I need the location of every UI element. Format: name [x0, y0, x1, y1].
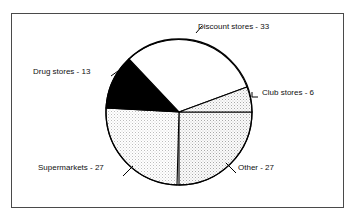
pie-label-discount-stores: Discount stores - 33 — [198, 22, 269, 32]
pie-label-other: Other - 27 — [238, 163, 274, 173]
pie-label-club-stores: Club stores - 6 — [262, 88, 314, 98]
leader-line-club-stores — [252, 92, 258, 97]
pie-slice-supermarkets[interactable] — [106, 108, 179, 185]
pie-svg — [0, 0, 355, 221]
pie-label-drug-stores: Drug stores - 13 — [33, 67, 90, 77]
leader-line-other — [226, 163, 236, 173]
pie-slice-other[interactable] — [179, 112, 252, 185]
pie-label-supermarkets: Supermarkets - 27 — [38, 163, 104, 173]
pie-chart-figure: Discount stores - 33 Drug stores - 13 Cl… — [0, 0, 355, 221]
leader-line-supermarkets — [123, 166, 133, 176]
